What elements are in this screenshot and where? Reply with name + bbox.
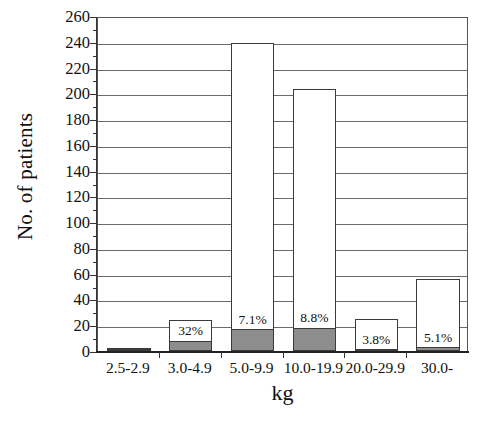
y-axis-tick-label: 220 (65, 60, 90, 77)
bar-group[interactable]: 32% (169, 16, 212, 351)
x-axis-tick-label: 20.0-29.9 (346, 360, 405, 376)
y-axis-tick-label: 140 (65, 163, 90, 180)
bar-group[interactable]: 7.1% (231, 16, 274, 351)
y-axis-tick-label: 160 (65, 138, 90, 155)
y-axis-tick-label: 240 (65, 35, 90, 52)
bar-percentage-label: 5.1% (416, 331, 459, 345)
gridline (98, 327, 467, 328)
x-axis-tick-label: 5.0-9.9 (230, 360, 274, 376)
x-axis-title: kg (97, 382, 468, 404)
y-axis-tick-label: 40 (74, 292, 91, 309)
x-axis-tick-mark (344, 352, 345, 358)
bar-group[interactable] (107, 16, 150, 351)
gridline (98, 224, 467, 225)
gridline (98, 301, 467, 302)
bar-group[interactable]: 8.8% (293, 16, 336, 351)
gridline (98, 173, 467, 174)
y-axis-tick-label: 100 (65, 215, 90, 232)
gridline (98, 95, 467, 96)
bar-group[interactable]: 3.8% (355, 16, 398, 351)
x-axis-tick-label: 30.0- (421, 360, 453, 376)
x-axis-tick-mark (283, 352, 284, 358)
bar-percentage-label: 8.8% (293, 311, 336, 325)
gridline (98, 70, 467, 71)
y-axis-tick-label: 120 (65, 189, 90, 206)
y-axis-tick-label: 80 (74, 241, 91, 258)
y-axis-title-label: No. of patients (14, 112, 39, 239)
gridline (98, 250, 467, 251)
gridline (98, 276, 467, 277)
bar-subgroup[interactable] (293, 328, 336, 351)
bar-percentage-label: 7.1% (231, 313, 274, 327)
bar-percentage-label: 3.8% (355, 333, 398, 347)
gridline (98, 44, 467, 45)
y-axis-tick-label: 60 (74, 266, 91, 283)
bar-total[interactable] (231, 43, 274, 351)
bar-group[interactable]: 5.1% (416, 16, 459, 351)
y-axis-tick-label: 200 (65, 86, 90, 103)
x-axis-tick-mark (406, 352, 407, 358)
y-axis-tick-label: 180 (65, 112, 90, 129)
y-axis-ticks: 020406080100120140160180200220240260 (52, 0, 97, 426)
bar-subgroup[interactable] (231, 329, 274, 351)
x-axis-tick-mark (159, 352, 160, 358)
bar-percentage-label: 32% (169, 324, 212, 338)
y-axis-tick-label: 0 (82, 344, 90, 361)
y-axis-title: No. of patients (0, 0, 52, 352)
x-axis-tick-label: 2.5-2.9 (106, 360, 150, 376)
gridline (98, 121, 467, 122)
gridline (98, 147, 467, 148)
y-axis-tick-label: 20 (74, 318, 91, 335)
y-axis-tick-label: 260 (65, 9, 90, 26)
plot-area: 32%7.1%8.8%3.8%5.1% (97, 17, 468, 352)
x-axis-tick-mark (221, 352, 222, 358)
x-axis-tick-label: 10.0-19.9 (284, 360, 343, 376)
bar-chart: No. of patients 020406080100120140160180… (0, 0, 478, 426)
bar-subgroup[interactable] (169, 341, 212, 351)
x-axis-tick-label: 3.0-4.9 (168, 360, 212, 376)
gridline (98, 198, 467, 199)
